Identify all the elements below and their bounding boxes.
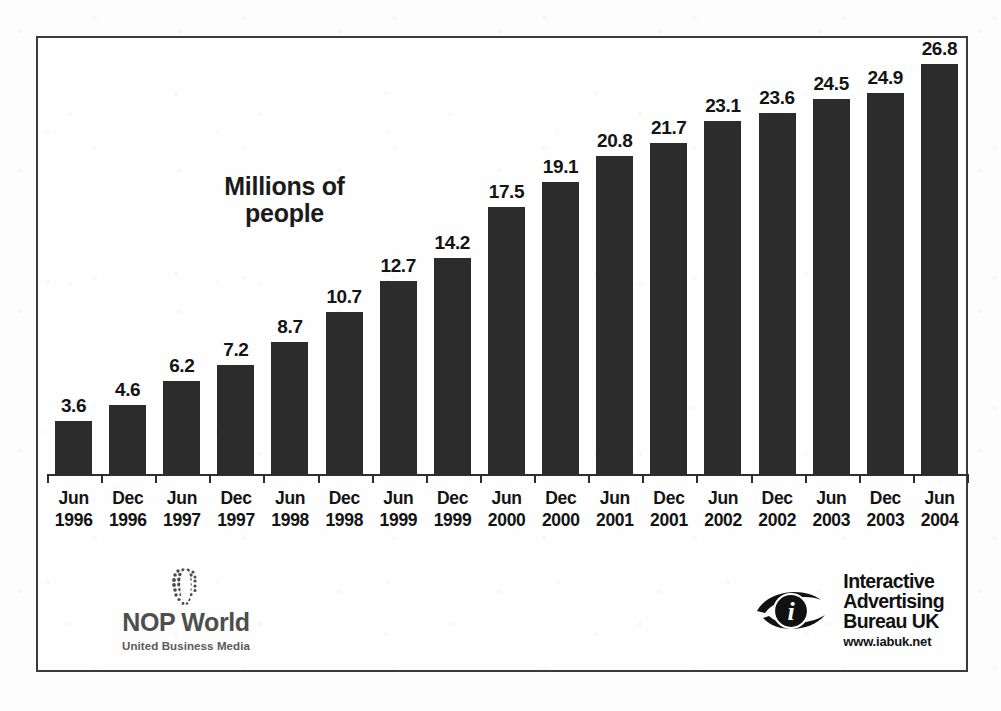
x-axis-label-year: 1998	[318, 509, 371, 531]
x-axis-label-year: 2004	[913, 509, 966, 531]
bar	[434, 258, 471, 476]
x-axis-label: Jun2001	[588, 487, 641, 532]
x-axis-label-month: Jun	[588, 487, 641, 509]
nop-world-name: NOP World	[71, 610, 301, 635]
x-axis-label-month: Dec	[751, 487, 804, 509]
bar	[921, 64, 958, 476]
x-axis-label: Jun1999	[372, 487, 425, 532]
bar-column: 23.1	[696, 38, 749, 476]
x-axis-label-month: Dec	[642, 487, 695, 509]
x-axis-label: Dec1996	[101, 487, 154, 532]
iab-line-1: Interactive	[843, 572, 944, 592]
iab-url: www.iabuk.net	[843, 635, 944, 648]
x-axis-label-month: Jun	[263, 487, 316, 509]
x-axis-label-year: 2002	[696, 509, 749, 531]
bar-column: 24.5	[805, 38, 858, 476]
x-axis-label-month: Dec	[859, 487, 912, 509]
x-axis-label: Jun1997	[155, 487, 208, 532]
x-axis-label-month: Jun	[480, 487, 533, 509]
bar	[271, 342, 308, 476]
x-axis-label-year: 1996	[47, 509, 100, 531]
bar-column: 23.6	[751, 38, 804, 476]
bar-column: 6.2	[155, 38, 208, 476]
x-axis-label-year: 1999	[426, 509, 479, 531]
bar	[488, 207, 525, 476]
x-axis-label-year: 1997	[155, 509, 208, 531]
bar-column: 10.7	[318, 38, 371, 476]
x-axis-label: Jun2002	[696, 487, 749, 532]
bar-series: 3.64.66.27.28.710.712.714.217.519.120.82…	[47, 38, 967, 476]
x-axis-tick	[155, 474, 157, 483]
x-axis-label-year: 1998	[263, 509, 316, 531]
x-axis-label-month: Jun	[913, 487, 966, 509]
bar	[759, 113, 796, 476]
x-axis-tick	[967, 474, 969, 483]
iab-logo: i Interactive Advertising Bureau UK www.…	[751, 572, 944, 648]
x-axis-label-month: Jun	[696, 487, 749, 509]
bar-column: 24.9	[859, 38, 912, 476]
x-axis-tick	[209, 474, 211, 483]
x-axis-tick	[318, 474, 320, 483]
x-axis-label-year: 2000	[534, 509, 587, 531]
iab-logo-text: Interactive Advertising Bureau UK www.ia…	[843, 572, 944, 648]
bar-column: 20.8	[588, 38, 641, 476]
nop-world-logo: NOP World United Business Media	[71, 566, 301, 652]
x-axis-tick	[805, 474, 807, 483]
x-axis-label-month: Dec	[534, 487, 587, 509]
bar-value-label: 19.1	[528, 156, 593, 178]
x-axis-tick	[534, 474, 536, 483]
bar-column: 3.6	[47, 38, 100, 476]
x-axis-tick	[372, 474, 374, 483]
chart-frame: Millions of people 3.64.66.27.28.710.712…	[36, 36, 968, 672]
bar-value-label: 12.7	[366, 255, 431, 277]
x-axis-label: Dec2002	[751, 487, 804, 532]
bar-column: 4.6	[101, 38, 154, 476]
x-axis-labels: Jun1996Dec1996Jun1997Dec1997Jun1998Dec19…	[47, 487, 967, 537]
bar-value-label: 17.5	[474, 181, 539, 203]
bar-column: 12.7	[372, 38, 425, 476]
x-axis-tick	[696, 474, 698, 483]
x-axis-label: Jun1996	[47, 487, 100, 532]
x-axis-label: Jun2000	[480, 487, 533, 532]
iab-line-3: Bureau UK	[843, 612, 944, 632]
bar	[109, 405, 146, 476]
x-axis-tick	[588, 474, 590, 483]
x-axis-label: Jun1998	[263, 487, 316, 532]
x-axis-tick	[426, 474, 428, 483]
bar-value-label: 14.2	[420, 232, 485, 254]
plot-area: Millions of people 3.64.66.27.28.710.712…	[47, 38, 967, 476]
iab-line-2: Advertising	[843, 592, 944, 612]
dotted-globe-icon	[169, 566, 203, 606]
x-axis-label-year: 2003	[859, 509, 912, 531]
bar	[163, 381, 200, 476]
nop-world-tagline: United Business Media	[71, 640, 301, 652]
bar-value-label: 10.7	[312, 286, 377, 308]
bar-column: 8.7	[263, 38, 316, 476]
x-axis-label: Jun2004	[913, 487, 966, 532]
bar	[326, 312, 363, 476]
bar-value-label: 8.7	[257, 316, 322, 338]
x-axis-label-year: 2001	[642, 509, 695, 531]
x-axis-line	[47, 474, 967, 476]
x-axis-label: Dec2000	[534, 487, 587, 532]
x-axis-label-year: 2000	[480, 509, 533, 531]
bar-value-label: 21.7	[636, 117, 701, 139]
x-axis-tick	[263, 474, 265, 483]
bar	[217, 365, 254, 476]
x-axis-label-month: Dec	[426, 487, 479, 509]
x-axis-label-year: 1996	[101, 509, 154, 531]
bar	[596, 156, 633, 476]
x-axis-label: Dec1997	[209, 487, 262, 532]
x-axis-label-month: Dec	[209, 487, 262, 509]
x-axis-label-year: 1997	[209, 509, 262, 531]
bar-value-label: 26.8	[907, 38, 972, 60]
x-axis-label-year: 2003	[805, 509, 858, 531]
bar-value-label: 24.9	[853, 67, 918, 89]
bar	[380, 281, 417, 476]
x-axis-label-month: Jun	[47, 487, 100, 509]
x-axis-label: Dec2001	[642, 487, 695, 532]
bar	[650, 143, 687, 476]
bar-value-label: 4.6	[95, 379, 160, 401]
x-axis-label: Dec1998	[318, 487, 371, 532]
x-axis-label-year: 2002	[751, 509, 804, 531]
